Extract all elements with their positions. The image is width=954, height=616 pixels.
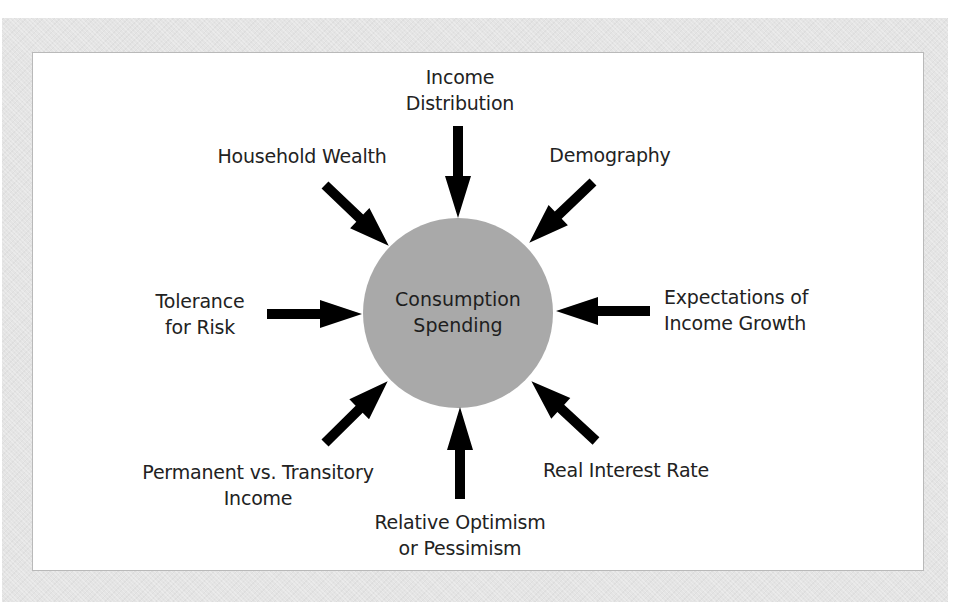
arrow-permanent-transitory-icon [315, 371, 397, 453]
factor-label-line: or Pessimism [350, 535, 570, 561]
arrow-household-wealth-icon [315, 175, 398, 256]
factor-tolerance-for-risk: Tolerance for Risk [130, 288, 270, 340]
factor-expectations-of-income-growth: Expectations of Income Growth [664, 284, 844, 336]
center-label: Consumption Spending [363, 286, 553, 338]
factor-label-line: Distribution [360, 90, 560, 116]
factor-permanent-vs-transitory-income: Permanent vs. Transitory Income [118, 459, 398, 511]
arrow-demography-icon [520, 172, 603, 253]
factor-label-line: Income Growth [664, 310, 844, 336]
factor-label-line: for Risk [130, 314, 270, 340]
factor-label-line: Expectations of [664, 284, 844, 310]
factor-label-line: Real Interest Rate [526, 457, 726, 483]
arrow-tolerance-for-risk-icon [267, 300, 362, 328]
factor-label-line: Relative Optimism [350, 509, 570, 535]
factor-household-wealth: Household Wealth [200, 143, 404, 169]
factor-real-interest-rate: Real Interest Rate [526, 457, 726, 483]
factor-label-line: Income [118, 485, 398, 511]
center-label-line-2: Spending [363, 312, 553, 338]
arrow-expectations-income-growth-icon [556, 297, 650, 325]
arrow-relative-optimism-icon [447, 407, 473, 499]
arrow-income-distribution-icon [445, 126, 471, 218]
factor-label-line: Demography [530, 142, 690, 168]
factor-label-line: Income [360, 64, 560, 90]
factor-demography: Demography [530, 142, 690, 168]
center-label-line-1: Consumption [363, 286, 553, 312]
factor-label-line: Permanent vs. Transitory [118, 459, 398, 485]
factor-income-distribution: Income Distribution [360, 64, 560, 116]
factor-label-line: Household Wealth [200, 143, 404, 169]
arrow-real-interest-rate-icon [522, 371, 606, 451]
factor-label-line: Tolerance [130, 288, 270, 314]
factor-relative-optimism-or-pessimism: Relative Optimism or Pessimism [350, 509, 570, 561]
